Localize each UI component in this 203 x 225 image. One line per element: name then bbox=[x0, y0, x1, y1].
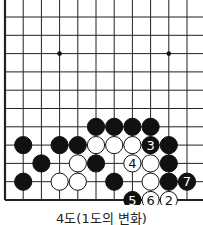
black-stone bbox=[160, 137, 177, 154]
white-stone bbox=[69, 155, 86, 172]
black-stone bbox=[69, 137, 86, 154]
white-stone bbox=[51, 173, 68, 190]
move-number: 3 bbox=[146, 138, 154, 153]
star-point bbox=[167, 51, 172, 56]
black-stone bbox=[15, 173, 32, 190]
move-number: 5 bbox=[128, 193, 136, 206]
black-stone bbox=[142, 118, 159, 135]
diagram-caption: 4도(1도의 변화) bbox=[0, 208, 203, 224]
black-stone bbox=[160, 155, 177, 172]
white-stone bbox=[142, 155, 159, 172]
move-number: 4 bbox=[128, 156, 136, 171]
white-stone bbox=[87, 137, 104, 154]
black-stone bbox=[160, 173, 177, 190]
black-stone bbox=[15, 137, 32, 154]
move-number: 7 bbox=[183, 174, 191, 189]
white-stone bbox=[124, 137, 141, 154]
star-point bbox=[57, 51, 62, 56]
black-stone bbox=[106, 118, 123, 135]
go-board: 347562 bbox=[0, 0, 203, 205]
move-number: 2 bbox=[165, 193, 173, 206]
black-stone bbox=[106, 173, 123, 190]
black-stone bbox=[124, 118, 141, 135]
white-stone bbox=[69, 173, 86, 190]
black-stone bbox=[87, 118, 104, 135]
white-stone bbox=[106, 137, 123, 154]
move-number: 6 bbox=[146, 193, 154, 206]
black-stone bbox=[87, 155, 104, 172]
white-stone bbox=[142, 173, 159, 190]
black-stone bbox=[33, 155, 50, 172]
black-stone bbox=[51, 137, 68, 154]
